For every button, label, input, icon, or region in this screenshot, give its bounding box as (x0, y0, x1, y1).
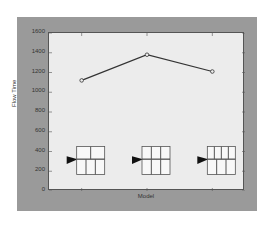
y-tick-label: 1400 (19, 48, 45, 54)
layout-diagram-icon (197, 147, 235, 175)
y-tick-label: 200 (19, 166, 45, 172)
y-tick-label: 1600 (19, 28, 45, 34)
data-point-marker (145, 53, 149, 57)
y-tick-label: 400 (19, 147, 45, 153)
data-point-marker (211, 70, 215, 74)
line-chart (49, 33, 245, 191)
data-line (82, 55, 213, 81)
arrow-icon (132, 156, 143, 164)
plot-area (48, 32, 244, 190)
arrow-icon (67, 156, 78, 164)
layout-diagram-icon (132, 147, 170, 175)
y-tick-label: 600 (19, 127, 45, 133)
y-tick-label: 1200 (19, 68, 45, 74)
y-tick-label: 800 (19, 107, 45, 113)
figure-frame: Flow Time 02004006008001000120014001600 … (17, 17, 257, 211)
layout-diagram-icon (67, 147, 105, 175)
y-tick-label: 0 (19, 186, 45, 192)
y-tick-label: 1000 (19, 87, 45, 93)
arrow-icon (197, 156, 208, 164)
y-axis-label: Flow Time (11, 80, 17, 107)
data-point-marker (80, 79, 84, 83)
x-axis-label: Model (126, 193, 166, 199)
